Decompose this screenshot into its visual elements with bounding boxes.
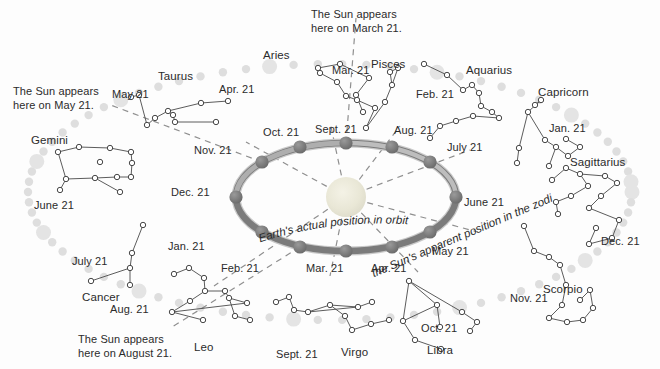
star xyxy=(577,144,582,149)
star xyxy=(476,90,481,95)
star xyxy=(514,160,519,165)
star xyxy=(107,145,112,150)
star xyxy=(226,295,231,300)
orbit-date-label-8: Jan. 21 xyxy=(168,240,205,254)
star xyxy=(55,149,60,154)
zodiac-date-label-9: July 21 xyxy=(72,255,108,269)
star xyxy=(97,159,102,164)
zodiac-dot xyxy=(219,68,227,76)
star xyxy=(521,223,526,228)
zodiac-dot xyxy=(39,147,47,155)
star xyxy=(421,61,426,66)
orbit-date-label-9: Dec. 21 xyxy=(171,186,210,200)
star xyxy=(598,193,603,198)
star xyxy=(542,137,547,142)
zodiac-date-label-3: Jan. 21 xyxy=(549,122,586,136)
star-link xyxy=(201,101,228,103)
star xyxy=(412,337,417,342)
star xyxy=(363,125,368,130)
zodiac-date-label-2: Feb. 21 xyxy=(416,88,454,102)
star-link xyxy=(58,152,66,179)
star xyxy=(349,327,354,332)
star xyxy=(531,248,536,253)
earth-position-marker xyxy=(339,136,352,149)
star xyxy=(165,108,170,113)
zodiac-dot xyxy=(132,284,147,299)
star xyxy=(57,187,62,192)
star xyxy=(200,317,205,322)
zodiac-dot xyxy=(117,280,125,288)
constellation-gemini xyxy=(55,144,134,194)
zodiac-dot xyxy=(154,83,162,91)
star-link xyxy=(132,225,143,253)
zodiac-dot xyxy=(410,65,418,73)
star xyxy=(549,177,554,182)
star-link xyxy=(580,174,605,176)
zodiac-dot xyxy=(36,225,51,240)
star xyxy=(186,265,191,270)
star-link xyxy=(473,116,499,118)
star-link xyxy=(110,148,131,152)
zodiac-dot xyxy=(58,247,66,255)
star xyxy=(586,205,591,210)
zodiac-dot xyxy=(286,312,301,327)
orbit-date-label-0: Sept. 21 xyxy=(315,123,357,137)
zodiac-dot xyxy=(564,108,579,123)
star xyxy=(247,317,252,322)
zodiac-dot xyxy=(219,308,227,316)
orbit-date-label-7: Feb. 21 xyxy=(221,262,259,276)
orbit-date-label-3: June 21 xyxy=(464,196,504,210)
star xyxy=(478,103,483,108)
earth-position-marker xyxy=(255,155,268,168)
star xyxy=(525,109,530,114)
star xyxy=(368,321,373,326)
star-link xyxy=(330,305,358,307)
star xyxy=(286,294,291,299)
star xyxy=(557,262,562,267)
star xyxy=(444,72,449,77)
sun xyxy=(326,177,366,217)
constellation-label-aries: Aries xyxy=(263,48,290,62)
orbit-date-label-6: Mar. 21 xyxy=(306,262,343,276)
star xyxy=(593,225,598,230)
zodiac-dot xyxy=(477,77,485,85)
star xyxy=(213,119,218,124)
zodiac-dot xyxy=(33,218,41,226)
star xyxy=(585,183,590,188)
star xyxy=(222,288,227,293)
star xyxy=(586,241,591,246)
star-link xyxy=(524,226,534,251)
callout-may: The Sun appears here on May 21. xyxy=(13,85,99,113)
star xyxy=(342,313,347,318)
star xyxy=(360,109,365,114)
star xyxy=(434,302,439,307)
star xyxy=(616,217,621,222)
star xyxy=(225,98,230,103)
orbit-date-label-4: May 21 xyxy=(432,245,469,259)
star xyxy=(577,297,582,302)
star xyxy=(459,309,464,314)
star xyxy=(317,70,322,75)
star xyxy=(187,298,192,303)
zodiac-dot xyxy=(624,174,639,189)
star xyxy=(172,119,177,124)
zodiac-dot xyxy=(578,253,593,268)
star xyxy=(76,144,81,149)
star-link xyxy=(172,312,203,320)
zodiac-date-label-1: Mar. 21 xyxy=(332,64,369,78)
star xyxy=(327,302,332,307)
star xyxy=(386,317,391,322)
star xyxy=(469,82,474,87)
star xyxy=(453,118,458,123)
zodiac-dot xyxy=(71,119,79,127)
star xyxy=(232,313,237,318)
earth-position-marker xyxy=(423,155,436,168)
constellation-label-libra: Libra xyxy=(427,343,453,357)
star xyxy=(546,254,551,259)
star xyxy=(127,282,132,287)
earth-position-marker xyxy=(229,190,242,203)
star xyxy=(496,115,501,120)
constellation-label-pisces: Pisces xyxy=(371,57,405,71)
zodiac-dot xyxy=(627,198,635,206)
star-link xyxy=(403,281,409,321)
